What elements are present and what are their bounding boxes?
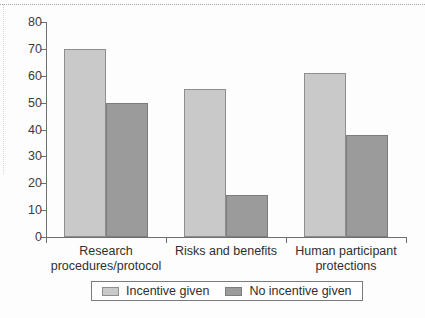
y-tick-label: 10 <box>28 204 42 217</box>
chart-legend: Incentive givenNo incentive given <box>91 281 363 301</box>
bar <box>304 73 346 237</box>
page-left-dotted-rule <box>3 4 4 174</box>
legend-item: No incentive given <box>225 285 351 298</box>
legend-label: Incentive given <box>126 285 209 298</box>
legend-swatch-icon <box>102 287 119 296</box>
y-tick-label: 30 <box>28 150 42 163</box>
y-tick-label: 50 <box>28 96 42 109</box>
y-tick-label: 60 <box>28 70 42 83</box>
y-tick-label: 20 <box>28 177 42 190</box>
legend-label: No incentive given <box>249 285 351 298</box>
y-tick-label: 40 <box>28 123 42 136</box>
bar <box>226 195 268 237</box>
x-tick-mark <box>406 237 407 243</box>
category-label: Human participant protections <box>273 244 419 273</box>
bar <box>184 89 226 237</box>
legend-swatch-icon <box>225 287 242 296</box>
x-axis-line <box>46 237 406 238</box>
bar <box>106 103 148 237</box>
plot-area: 01020304050607080 Research procedures/pr… <box>46 22 406 237</box>
x-tick-mark <box>286 237 287 243</box>
y-tick-label: 70 <box>28 43 42 56</box>
y-tick-label: 80 <box>28 16 42 29</box>
y-tick-label: 0 <box>35 231 42 244</box>
legend-item: Incentive given <box>102 285 209 298</box>
bar-chart-figure: 01020304050607080 Research procedures/pr… <box>0 0 425 318</box>
x-tick-mark <box>166 237 167 243</box>
y-axis-line <box>46 22 47 237</box>
x-tick-mark <box>46 237 47 243</box>
bar <box>346 135 388 237</box>
page-top-dotted-rule <box>0 4 425 5</box>
bar <box>64 49 106 237</box>
